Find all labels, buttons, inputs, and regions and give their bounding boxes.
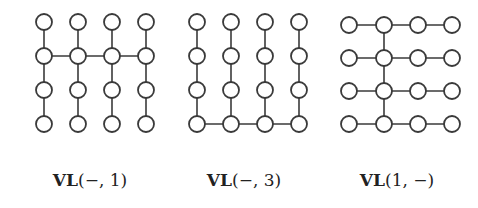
- graph-node: [104, 82, 120, 98]
- graph-node: [291, 14, 307, 30]
- graph-node: [257, 48, 273, 64]
- graph-node: [341, 116, 357, 132]
- label-vl-minus-3: VL(−, 3): [207, 170, 281, 196]
- graph-node: [223, 116, 239, 132]
- graph-node: [257, 14, 273, 30]
- graph-node: [444, 83, 460, 99]
- graph-node: [36, 116, 52, 132]
- graph-node: [376, 83, 392, 99]
- graph-node: [444, 17, 460, 33]
- graph-node: [376, 116, 392, 132]
- graph-node: [410, 17, 426, 33]
- label-prefix: VL: [207, 170, 232, 190]
- graph-node: [104, 14, 120, 30]
- graph-node: [36, 82, 52, 98]
- graph-node: [376, 17, 392, 33]
- graph-node: [376, 50, 392, 66]
- graph-node: [223, 48, 239, 64]
- label-args: (−, 1): [78, 170, 127, 190]
- graph-node: [189, 14, 205, 30]
- graph-node: [410, 116, 426, 132]
- graph-node: [36, 48, 52, 64]
- graph-node: [444, 116, 460, 132]
- graph-node: [444, 50, 460, 66]
- graph-node: [341, 17, 357, 33]
- graph-node: [104, 48, 120, 64]
- graph-node: [189, 82, 205, 98]
- graph-node: [291, 48, 307, 64]
- panel-vl-minus-1: [36, 14, 154, 132]
- graph-node: [70, 14, 86, 30]
- graph-node: [189, 48, 205, 64]
- panel-vl-minus-3: [189, 14, 307, 132]
- label-vl-1-minus: VL(1, −): [360, 170, 434, 196]
- graph-node: [36, 14, 52, 30]
- graph-node: [223, 14, 239, 30]
- graph-node: [257, 116, 273, 132]
- graph-node: [70, 82, 86, 98]
- graph-node: [70, 48, 86, 64]
- graph-node: [189, 116, 205, 132]
- graph-node: [410, 83, 426, 99]
- graph-node: [138, 82, 154, 98]
- graph-node: [291, 116, 307, 132]
- label-prefix: VL: [360, 170, 385, 190]
- graph-node: [341, 50, 357, 66]
- graph-node: [70, 116, 86, 132]
- graph-node: [291, 82, 307, 98]
- graph-node: [410, 50, 426, 66]
- graph-node: [104, 116, 120, 132]
- graph-node: [257, 82, 273, 98]
- label-prefix: VL: [53, 170, 78, 190]
- graph-node: [223, 82, 239, 98]
- graph-node: [138, 116, 154, 132]
- panel-vl-1-minus: [341, 17, 460, 132]
- label-vl-minus-1: VL(−, 1): [53, 170, 127, 196]
- label-args: (−, 3): [232, 170, 281, 190]
- graph-node: [341, 83, 357, 99]
- graph-node: [138, 14, 154, 30]
- graph-node: [138, 48, 154, 64]
- label-args: (1, −): [385, 170, 434, 190]
